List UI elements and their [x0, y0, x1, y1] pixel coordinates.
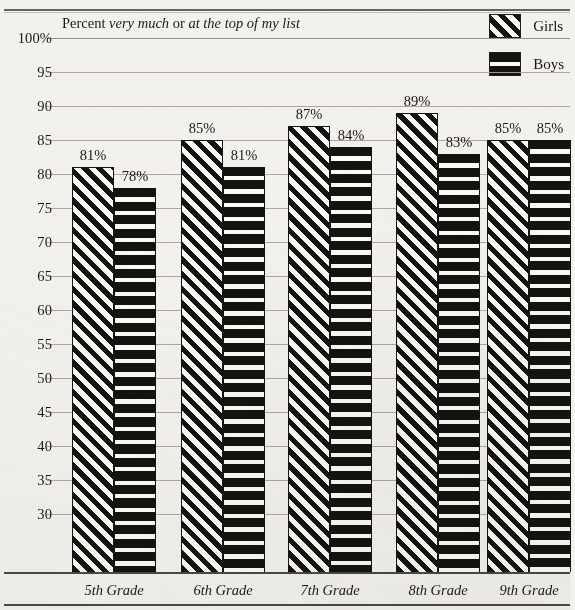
x-axis-label-6th-grade: 6th Grade: [168, 583, 278, 598]
bar-value-label-girls-7th-grade: 87%: [288, 107, 330, 122]
bar-top-edge: [224, 167, 264, 168]
bar-girls-6th-grade: [181, 140, 223, 572]
bar-top-edge: [530, 140, 570, 141]
bar-boys-8th-grade: [438, 154, 480, 572]
bar-group-7th-grade: [288, 0, 372, 572]
bar-value-label-girls-9th-grade: 85%: [487, 121, 529, 136]
bar-value-label-boys-8th-grade: 83%: [438, 135, 480, 150]
bar-girls-9th-grade: [487, 140, 529, 572]
bar-top-edge: [331, 147, 371, 148]
bar-group-9th-grade: [487, 0, 571, 572]
bar-girls-8th-grade: [396, 113, 438, 572]
bar-boys-7th-grade: [330, 147, 372, 572]
bar-group-8th-grade: [396, 0, 480, 572]
bar-value-label-boys-7th-grade: 84%: [330, 128, 372, 143]
bar-value-label-girls-6th-grade: 85%: [181, 121, 223, 136]
x-axis-label-9th-grade: 9th Grade: [474, 583, 575, 598]
bar-top-edge: [115, 188, 155, 189]
bar-value-label-girls-8th-grade: 89%: [396, 94, 438, 109]
bar-girls-7th-grade: [288, 126, 330, 572]
bar-top-edge: [182, 140, 222, 141]
bar-boys-5th-grade: [114, 188, 156, 572]
x-axis-label-7th-grade: 7th Grade: [275, 583, 385, 598]
bar-value-label-boys-9th-grade: 85%: [529, 121, 571, 136]
bar-value-label-boys-6th-grade: 81%: [223, 148, 265, 163]
bar-boys-6th-grade: [223, 167, 265, 572]
bar-boys-9th-grade: [529, 140, 571, 572]
bar-group-5th-grade: [72, 0, 156, 572]
bar-top-edge: [289, 126, 329, 127]
bar-top-edge: [397, 113, 437, 114]
bar-value-label-girls-5th-grade: 81%: [72, 148, 114, 163]
bar-girls-5th-grade: [72, 167, 114, 572]
bar-top-edge: [439, 154, 479, 155]
bar-value-label-boys-5th-grade: 78%: [114, 169, 156, 184]
x-axis-label-5th-grade: 5th Grade: [59, 583, 169, 598]
bar-group-6th-grade: [181, 0, 265, 572]
bar-top-edge: [73, 167, 113, 168]
bar-top-edge: [488, 140, 528, 141]
